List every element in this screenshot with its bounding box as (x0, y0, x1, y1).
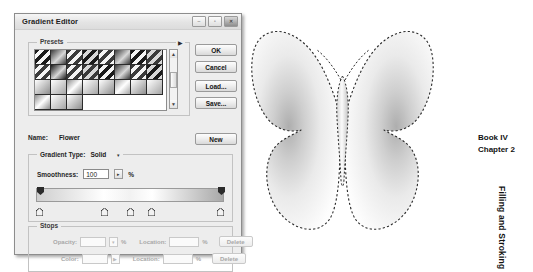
preset-swatch[interactable] (67, 65, 83, 80)
color-stop-row: Color: ▶ Location: % Delete (61, 253, 246, 264)
book-number: Book IV (478, 132, 533, 144)
preset-swatch[interactable] (115, 50, 131, 65)
preset-swatch[interactable] (147, 95, 163, 110)
name-label: Name: (28, 134, 48, 141)
gradient-preview-bar[interactable] (36, 188, 224, 202)
gradient-type-row: Gradient Type: Solid ▾ (37, 151, 123, 158)
presets-scrollbar[interactable]: ▲ ▼ (169, 49, 178, 109)
color-stop-marker[interactable] (148, 202, 155, 210)
opacity-location-percent: % (202, 239, 207, 245)
close-icon[interactable]: ✕ (224, 16, 238, 27)
preset-swatch[interactable] (51, 95, 67, 110)
preset-swatch[interactable] (35, 80, 51, 95)
gradient-editor-dialog: Gradient Editor – ▫ ✕ Presets ▶ ▲ ▼ (14, 13, 242, 255)
preset-swatch[interactable] (99, 50, 115, 65)
preset-swatch[interactable] (51, 65, 67, 80)
stops-label: Stops (37, 222, 61, 229)
dialog-titlebar[interactable]: Gradient Editor – ▫ ✕ (15, 14, 241, 30)
scroll-down-icon[interactable]: ▼ (170, 100, 177, 108)
preset-swatch[interactable] (51, 80, 67, 95)
opacity-stop-marker[interactable] (37, 181, 44, 189)
color-stop-marker[interactable] (36, 202, 43, 210)
color-location-label: Location: (133, 256, 160, 262)
preset-swatch[interactable] (35, 65, 51, 80)
color-stop-marker[interactable] (101, 202, 108, 210)
load-button[interactable]: Load... (195, 80, 237, 92)
preset-swatch[interactable] (147, 80, 163, 95)
preset-swatch[interactable] (83, 80, 99, 95)
smoothness-label: Smoothness: (37, 171, 78, 178)
gradient-name-row: Name: Flower (28, 134, 80, 141)
chapter-number: Chapter 2 (478, 144, 533, 156)
preset-swatch[interactable] (99, 95, 115, 110)
preset-swatch[interactable] (115, 80, 131, 95)
name-value[interactable]: Flower (59, 134, 80, 141)
dialog-title: Gradient Editor (22, 17, 78, 26)
preset-swatch[interactable] (115, 95, 131, 110)
new-button[interactable]: New (195, 133, 237, 145)
dialog-body: Presets ▶ ▲ ▼ OK Cancel Load... Save... … (15, 30, 241, 256)
presets-group: Presets ▶ ▲ ▼ (28, 42, 190, 116)
butterfly-left-wing (252, 31, 340, 229)
butterfly-shape (245, 14, 440, 254)
gradient-type-value[interactable]: Solid (90, 151, 106, 158)
opacity-label: Opacity: (53, 239, 77, 245)
color-stop-marker[interactable] (217, 202, 224, 210)
cancel-button[interactable]: Cancel (195, 61, 237, 73)
preset-swatch[interactable] (67, 80, 83, 95)
color-delete-button: Delete (212, 253, 246, 264)
running-head: Filling and Stroking (496, 186, 508, 269)
presets-menu-arrow-icon[interactable]: ▶ (176, 38, 185, 47)
preset-swatch[interactable] (51, 50, 67, 65)
preset-swatch[interactable] (83, 50, 99, 65)
preset-swatch[interactable] (147, 65, 163, 80)
preset-swatch[interactable] (131, 65, 147, 80)
window-controls: – ▫ ✕ (192, 16, 238, 27)
butterfly-right-wing (345, 31, 433, 229)
color-swatch (82, 254, 108, 264)
preset-swatch[interactable] (131, 50, 147, 65)
preset-swatch-grid[interactable] (35, 50, 163, 110)
save-button[interactable]: Save... (195, 97, 237, 109)
color-location-percent: % (196, 256, 201, 262)
opacity-stop-marker[interactable] (218, 181, 225, 189)
preset-swatch[interactable] (131, 80, 147, 95)
color-stop-marker[interactable] (127, 202, 134, 210)
preset-swatch[interactable] (67, 95, 83, 110)
gradient-bar-wrapper (36, 188, 224, 212)
preset-swatch[interactable] (83, 95, 99, 110)
smoothness-input[interactable]: 100 (83, 169, 109, 179)
opacity-input (80, 237, 106, 247)
color-picker-arrow-icon: ▶ (111, 254, 120, 264)
chevron-down-icon[interactable]: ▾ (117, 152, 120, 158)
opacity-percent: % (121, 239, 126, 245)
preset-swatch[interactable] (131, 95, 147, 110)
scroll-up-icon[interactable]: ▲ (170, 50, 177, 58)
preset-swatch[interactable] (83, 65, 99, 80)
preset-swatch[interactable] (147, 50, 163, 65)
gradient-type-label: Gradient Type: (40, 151, 85, 158)
minimize-icon[interactable]: – (192, 16, 206, 27)
opacity-location-input (169, 237, 199, 247)
maximize-icon[interactable]: ▫ (208, 16, 222, 27)
preset-swatch[interactable] (99, 65, 115, 80)
book-chapter-label: Book IV Chapter 2 (478, 132, 533, 156)
color-label: Color: (61, 256, 79, 262)
presets-swatch-panel[interactable] (34, 49, 167, 111)
smoothness-stepper-icon[interactable]: ▸ (114, 169, 123, 179)
color-location-input (163, 254, 193, 264)
presets-label: Presets (37, 38, 67, 45)
preset-swatch[interactable] (67, 50, 83, 65)
preset-swatch[interactable] (115, 65, 131, 80)
preset-swatch[interactable] (35, 50, 51, 65)
ok-button[interactable]: OK (195, 44, 237, 56)
stops-group: Stops Opacity: ▾ % Location: % Delete Co… (28, 226, 233, 272)
preset-swatch[interactable] (35, 95, 51, 110)
opacity-stop-row: Opacity: ▾ % Location: % Delete (53, 236, 253, 247)
color-stop-layer (36, 202, 224, 212)
preset-swatch[interactable] (99, 80, 115, 95)
smoothness-row: Smoothness: 100 ▸ % (37, 169, 134, 179)
scrollbar-thumb[interactable] (170, 72, 177, 88)
opacity-chevron-down-icon: ▾ (109, 237, 118, 247)
